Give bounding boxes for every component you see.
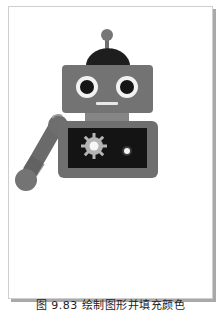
robot-screen — [68, 128, 147, 168]
robot-neck — [85, 113, 129, 121]
robot-head — [62, 65, 153, 113]
right-eye — [116, 76, 138, 98]
robot-mouth — [96, 102, 118, 105]
left-eye — [76, 76, 98, 98]
robot-body — [58, 121, 158, 178]
status-light-icon — [122, 146, 132, 156]
robot-illustration — [0, 0, 221, 314]
figure-caption: 图 9.83 绘制图形并填充颜色 — [0, 298, 221, 314]
gear-icon — [81, 133, 107, 159]
robot-dome — [86, 48, 130, 66]
antenna-ball — [101, 29, 113, 41]
robot-hand — [15, 169, 37, 191]
